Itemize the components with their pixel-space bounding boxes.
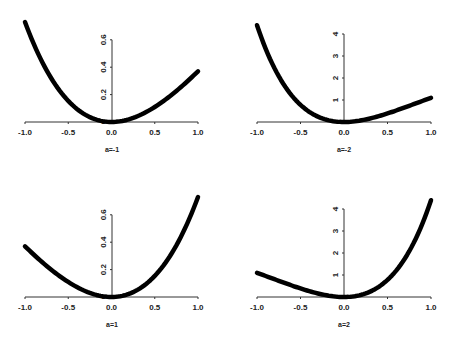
panel-label: a=2 — [338, 321, 350, 328]
y-tick-label: 2 — [331, 75, 340, 80]
y-tick-label: 0.6 — [99, 34, 108, 46]
y-tick-label: 0.2 — [99, 88, 108, 100]
y-tick-label: 1 — [331, 97, 340, 102]
panel-a-eq--2: -1.0-0.50.00.51.01234a=-2 — [250, 25, 437, 153]
x-tick-label: -1.0 — [18, 303, 32, 312]
y-tick-label: 4 — [331, 31, 340, 36]
x-tick-label: 0.5 — [149, 128, 161, 137]
panel-a-eq-2: -1.0-0.50.00.51.01234a=2 — [250, 200, 437, 328]
y-tick-label: 0.2 — [99, 263, 108, 275]
y-tick-label: 0.4 — [99, 61, 108, 73]
x-tick-label: -0.5 — [61, 303, 75, 312]
x-tick-label: 1.0 — [425, 128, 437, 137]
panel-a-eq--1: -1.0-0.50.00.51.000.20.40.6a=-1 — [18, 22, 204, 153]
y-tick-label: 3 — [331, 53, 340, 58]
x-tick-label: -1.0 — [250, 303, 264, 312]
x-tick-label: 0.5 — [382, 303, 394, 312]
panel-label: a=-2 — [337, 146, 351, 153]
y-tick-label: 2 — [331, 250, 340, 255]
figure-2x2-grid: -1.0-0.50.00.51.000.20.40.6a=-1-1.0-0.50… — [0, 0, 457, 344]
x-tick-label: 0.5 — [149, 303, 161, 312]
x-tick-label: -1.0 — [250, 128, 264, 137]
x-tick-label: -0.5 — [294, 303, 308, 312]
x-tick-label: -0.5 — [294, 128, 308, 137]
y-tick-label: 4 — [331, 206, 340, 211]
x-tick-label: 1.0 — [192, 303, 204, 312]
x-tick-label: -0.5 — [61, 128, 75, 137]
panel-a-eq-1: -1.0-0.50.00.51.000.20.40.6a=1 — [18, 197, 204, 328]
y-tick-label: 3 — [331, 228, 340, 233]
x-tick-label: -1.0 — [18, 128, 32, 137]
x-tick-label: 0.0 — [338, 303, 350, 312]
panel-label: a=1 — [106, 321, 118, 328]
x-tick-label: 0.0 — [338, 128, 350, 137]
y-tick-label: 1 — [331, 272, 340, 277]
panel-label: a=-1 — [105, 146, 119, 153]
x-tick-label: 0.5 — [382, 128, 394, 137]
y-tick-label: 0.6 — [99, 209, 108, 221]
y-tick-label: 0.4 — [99, 236, 108, 248]
x-tick-label: 1.0 — [192, 128, 204, 137]
x-tick-label: 1.0 — [425, 303, 437, 312]
x-tick-label: 0.0 — [106, 303, 118, 312]
x-tick-label: 0.0 — [106, 128, 118, 137]
